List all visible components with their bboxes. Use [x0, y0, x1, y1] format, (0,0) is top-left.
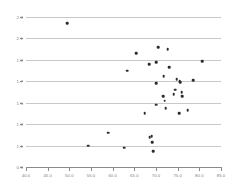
data-point: [162, 95, 165, 98]
x-axis-tick-label: 60.0: [108, 173, 117, 178]
x-axis-tick-label: 55.0: [87, 173, 96, 178]
y-axis-tick: [20, 167, 23, 168]
data-point: [178, 112, 181, 115]
data-point: [157, 46, 160, 49]
gridline: [26, 17, 221, 18]
x-axis-tick-label: 45.0: [43, 173, 52, 178]
data-point: [168, 66, 171, 69]
data-point: [192, 79, 195, 82]
data-point: [163, 99, 166, 102]
y-axis-tick: [20, 60, 23, 61]
gridline: [26, 38, 221, 39]
data-point: [151, 141, 154, 144]
y-axis-tick: [20, 38, 23, 39]
data-point: [186, 109, 189, 112]
x-axis-labels: 40.045.050.055.060.065.070.075.080.085.0: [26, 168, 221, 184]
data-point: [174, 89, 177, 92]
x-axis-tick-label: 40.0: [22, 173, 31, 178]
gridline: [26, 103, 221, 104]
y-axis-tick: [20, 17, 23, 18]
data-point: [155, 82, 158, 85]
x-axis-tick-label: 65.0: [130, 173, 139, 178]
data-point: [126, 69, 129, 72]
x-axis-tick-label: 70.0: [152, 173, 161, 178]
data-point: [163, 75, 166, 78]
x-axis-tick: [134, 168, 135, 171]
x-axis-tick-label: 50.0: [65, 173, 74, 178]
data-point: [155, 104, 158, 107]
y-axis-tick: [20, 124, 23, 125]
x-axis-tick-label: 80.0: [195, 173, 204, 178]
data-point: [179, 81, 182, 84]
data-point: [201, 60, 204, 63]
x-axis-tick: [91, 168, 92, 171]
data-point: [166, 48, 169, 51]
scatter-chart: 0.91.11.31.51.71.92.12.3 40.045.050.055.…: [0, 0, 231, 189]
x-axis-tick: [199, 168, 200, 171]
plot-area: [26, 17, 221, 167]
data-point: [180, 91, 183, 94]
data-point: [123, 146, 126, 149]
data-point: [66, 22, 69, 25]
x-axis-tick: [48, 168, 49, 171]
x-axis-tick-label: 85.0: [217, 173, 226, 178]
x-axis-tick: [69, 168, 70, 171]
data-point: [107, 131, 110, 134]
data-point: [172, 93, 175, 96]
y-axis-tick: [20, 146, 23, 147]
x-axis-tick: [156, 168, 157, 171]
x-axis-tick-label: 75.0: [173, 173, 182, 178]
data-point: [143, 112, 146, 115]
y-axis-labels: 0.91.11.31.51.71.92.12.3: [0, 17, 23, 167]
gridline: [26, 60, 221, 61]
data-point: [87, 144, 90, 147]
y-axis-tick: [20, 81, 23, 82]
data-point: [155, 61, 158, 64]
data-point: [152, 150, 155, 153]
x-axis-tick: [178, 168, 179, 171]
x-axis-tick: [221, 168, 222, 171]
data-point: [150, 135, 153, 138]
data-point: [148, 63, 151, 66]
x-axis-tick: [26, 168, 27, 171]
data-point: [135, 52, 138, 55]
gridline: [26, 124, 221, 125]
y-axis-tick: [20, 103, 23, 104]
data-point: [164, 107, 167, 110]
data-point: [181, 95, 184, 98]
x-axis-tick: [113, 168, 114, 171]
